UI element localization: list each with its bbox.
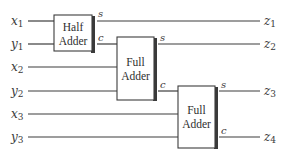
half-adder-label-2: Adder — [59, 35, 88, 47]
full-adder-1-sum-label: s — [160, 32, 165, 43]
ripple-adder-diagram: Half Adder s c Full Adder s c Full Adder… — [0, 0, 290, 159]
input-label-x3: x3 — [11, 107, 24, 122]
full-adder-2-carry-label: c — [221, 125, 227, 136]
input-labels: x1 y1 x2 y2 x3 y3 — [10, 14, 24, 145]
output-labels: z1 z2 z3 z4 — [263, 14, 276, 145]
input-label-y1: y1 — [10, 37, 24, 52]
input-label-x1: x1 — [11, 14, 24, 29]
half-adder-carry-label: c — [98, 32, 104, 43]
output-label-z3: z3 — [263, 84, 276, 99]
half-adder-label-1: Half — [63, 21, 84, 33]
full-adder-2-box — [178, 86, 215, 148]
input-label-x2: x2 — [11, 60, 24, 75]
input-label-y2: y2 — [10, 84, 24, 99]
input-label-y3: y3 — [10, 130, 24, 145]
full-adder-2-label-2: Adder — [182, 118, 211, 130]
half-adder-block: Half Adder s c — [54, 8, 104, 53]
output-label-z2: z2 — [263, 37, 276, 52]
full-adder-2-sum-label: s — [221, 79, 226, 90]
output-label-z4: z4 — [263, 130, 276, 145]
full-adder-1-label-2: Adder — [121, 70, 150, 82]
full-adder-1-label-1: Full — [126, 56, 145, 68]
half-adder-sum-label: s — [98, 8, 103, 19]
full-adder-1-carry-label: c — [160, 79, 166, 90]
full-adder-1-box — [117, 37, 154, 100]
full-adder-2-block: Full Adder s c — [178, 79, 227, 149]
full-adder-2-label-1: Full — [187, 104, 206, 116]
output-label-z1: z1 — [263, 14, 276, 29]
